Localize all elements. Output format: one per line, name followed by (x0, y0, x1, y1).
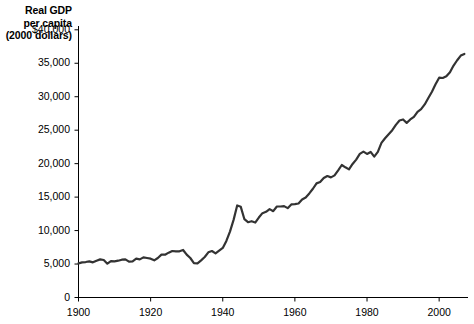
gdp-series-line (79, 54, 465, 264)
y-axis-tick-label: 10,000 (0, 225, 70, 236)
chart-figure: Real GDP per capita (2000 dollars) 05,00… (0, 0, 474, 324)
x-axis-tick-label: 1900 (56, 307, 102, 318)
axis-lines (78, 26, 468, 298)
y-axis-tick-label: 5,000 (0, 258, 70, 269)
y-axis-tick-label: 20,000 (0, 158, 70, 169)
x-axis-ticks (79, 298, 440, 302)
y-axis-tick-label: 0 (0, 292, 70, 303)
line-chart-plot (0, 0, 474, 324)
x-axis-tick-label: 1960 (272, 307, 318, 318)
y-axis-tick-label: 35,000 (0, 57, 70, 68)
x-axis-tick-label: 1920 (128, 307, 174, 318)
y-axis-tick-label: 25,000 (0, 124, 70, 135)
y-axis-ticks (75, 30, 79, 298)
y-axis-tick-label: 30,000 (0, 91, 70, 102)
x-axis-tick-label: 1940 (200, 307, 246, 318)
y-axis-tick-label: $40,000 (0, 24, 70, 35)
x-axis-tick-label: 1980 (344, 307, 390, 318)
x-axis-tick-label: 2000 (416, 307, 462, 318)
y-axis-tick-label: 15,000 (0, 191, 70, 202)
